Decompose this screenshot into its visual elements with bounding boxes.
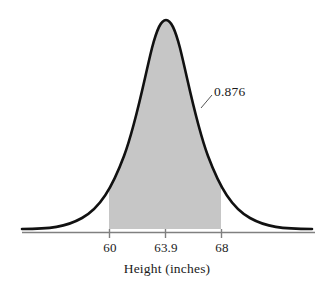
x-tick-label-68: 68 <box>215 240 228 256</box>
x-axis-title: Height (inches) <box>0 261 334 277</box>
x-tick-label-60: 60 <box>103 240 116 256</box>
x-tick-label-mean: 63.9 <box>154 240 178 256</box>
area-annotation-label: 0.876 <box>214 84 245 100</box>
shaded-region <box>109 18 221 229</box>
annotation-leader-line <box>201 95 212 108</box>
normal-distribution-figure: 0.876 60 63.9 68 Height (inches) <box>0 0 334 289</box>
